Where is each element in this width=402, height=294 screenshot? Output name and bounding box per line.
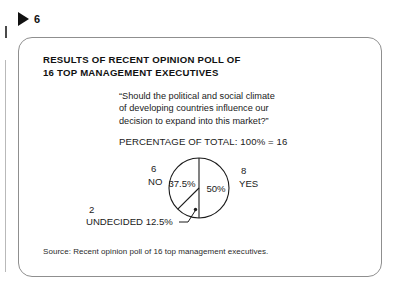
slice-label-yes: YES — [239, 178, 258, 189]
undecided-leader-dot — [194, 208, 197, 211]
slice-percent-no: 37.5% — [168, 178, 196, 189]
page-edge-artifact-top — [5, 26, 7, 38]
slice-percent-yes: 50% — [206, 183, 226, 194]
figure-marker: 6 — [18, 12, 40, 26]
source-note: Source: Recent opinion poll of 16 top ma… — [43, 247, 268, 256]
slice-count-no: 6 — [151, 163, 156, 174]
pie-chart-svg: 37.5% 50% 6 NO 8 YES 2 UNDECIDED 12.5% — [49, 146, 349, 241]
slice-count-yes: 8 — [241, 165, 246, 176]
exhibit-card: RESULTS OF RECENT OPINION POLL OF 16 TOP… — [18, 37, 382, 277]
figure-number: 6 — [34, 14, 40, 25]
page-edge-artifact — [5, 60, 6, 272]
pie-chart: 37.5% 50% 6 NO 8 YES 2 UNDECIDED 12.5% — [19, 38, 383, 278]
slice-count-undecided: 2 — [89, 204, 94, 215]
triangle-right-icon — [18, 12, 29, 26]
slice-label-undecided: UNDECIDED 12.5% — [86, 216, 173, 227]
slice-label-no: NO — [148, 176, 162, 187]
